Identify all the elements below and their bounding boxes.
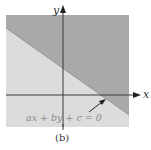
half-plane-diagram: y x ax + by + c = 0 (b): [0, 0, 151, 150]
y-axis-label: y: [52, 4, 60, 17]
x-axis-label: x: [143, 88, 150, 101]
y-axis-arrow-icon: [60, 5, 66, 13]
figure-caption: (b): [55, 132, 69, 143]
x-axis-arrow-icon: [133, 92, 141, 98]
line-equation-label: ax + by + c = 0: [26, 112, 102, 123]
